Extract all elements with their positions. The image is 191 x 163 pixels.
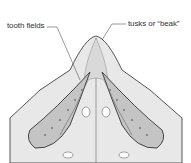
tusks-leader [102,24,126,40]
tooth-fields-label: tooth fields [7,21,45,30]
tusks-label: tusks or “beak” [128,19,179,28]
